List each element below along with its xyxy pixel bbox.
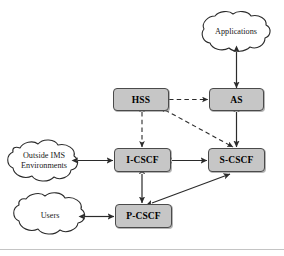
edge-pcscf-scscf (152, 174, 230, 203)
node-i-cscf-label: I-CSCF (126, 155, 158, 165)
node-as-label: AS (230, 95, 242, 105)
node-p-cscf-label: P-CSCF (126, 211, 160, 221)
edge-hss-scscf (165, 110, 233, 147)
node-i-cscf[interactable]: I-CSCF (114, 148, 171, 172)
diagram-canvas: Applications Outside IMS Environments Us… (0, 0, 284, 256)
cloud-outside-ims (8, 140, 78, 181)
node-hss-label: HSS (132, 95, 150, 105)
node-s-cscf-label: S-CSCF (220, 155, 254, 165)
bottom-divider (0, 249, 284, 250)
cloud-applications (202, 12, 270, 52)
cloud-users (14, 193, 85, 234)
node-s-cscf[interactable]: S-CSCF (208, 148, 265, 172)
node-p-cscf[interactable]: P-CSCF (115, 204, 172, 228)
node-as[interactable]: AS (209, 88, 264, 111)
node-hss[interactable]: HSS (113, 88, 169, 111)
